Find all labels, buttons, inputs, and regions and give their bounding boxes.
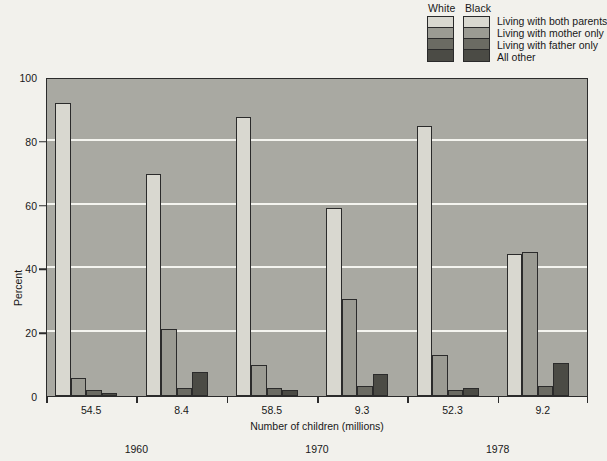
legend-swatch-column-white — [427, 16, 454, 62]
x-tick-mark-4 — [407, 397, 409, 403]
y-tick-label-0: 0 — [31, 391, 37, 403]
bar-9.2-series-3 — [538, 386, 554, 396]
bar-group-52.3 — [417, 79, 479, 396]
x-axis: Number of children (millions) 54.58.458.… — [46, 397, 588, 461]
x-tick-mark-1 — [136, 397, 138, 403]
x-tick-mark-3 — [317, 397, 319, 403]
x-tick-label-54.5: 54.5 — [81, 404, 101, 416]
legend-swatch-white-2 — [428, 28, 453, 39]
bar-58.5-series-3 — [267, 388, 283, 396]
bar-58.5-series-4 — [282, 390, 298, 396]
y-tick-label-20: 20 — [25, 327, 37, 339]
plot-area — [46, 78, 588, 397]
bar-58.5-series-2 — [251, 365, 267, 396]
legend-label-3: Living with father only — [497, 39, 607, 51]
bar-group-8.4 — [146, 79, 208, 396]
legend-swatch-black-4 — [464, 50, 489, 61]
y-tick-label-60: 60 — [25, 200, 37, 212]
bar-54.5-series-1 — [55, 103, 71, 396]
year-group-label-1970: 1970 — [305, 443, 328, 455]
y-tick-mark-40 — [39, 269, 46, 271]
bar-54.5-series-2 — [71, 378, 87, 397]
y-tick-mark-60 — [39, 205, 46, 207]
y-tick-label-40: 40 — [25, 263, 37, 275]
bar-8.4-series-2 — [161, 329, 177, 396]
bar-8.4-series-1 — [146, 174, 162, 396]
bar-group-58.5 — [236, 79, 298, 396]
x-tick-label-9.3: 9.3 — [355, 404, 370, 416]
x-axis-title: Number of children (millions) — [46, 420, 588, 432]
legend-header-black: Black — [465, 2, 491, 14]
legend-swatch-black-2 — [464, 28, 489, 39]
x-tick-mark-2 — [227, 397, 229, 403]
legend-swatch-white-1 — [428, 17, 453, 28]
y-tick-mark-80 — [39, 141, 46, 143]
legend-swatch-column-black — [463, 16, 490, 62]
bar-54.5-series-3 — [86, 390, 102, 396]
bar-52.3-series-2 — [432, 355, 448, 396]
x-tick-label-9.2: 9.2 — [536, 404, 551, 416]
bar-9.3-series-4 — [373, 374, 389, 396]
legend-label-list: Living with both parentsLiving with moth… — [497, 15, 607, 63]
bar-9.2-series-4 — [553, 363, 569, 396]
bar-9.2-series-2 — [522, 252, 538, 396]
x-tick-mark-edge-0 — [46, 397, 48, 403]
x-tick-label-8.4: 8.4 — [174, 404, 189, 416]
chart-legend: White Black Living with both parentsLivi… — [425, 2, 603, 64]
bar-8.4-series-3 — [177, 388, 193, 396]
x-tick-mark-5 — [498, 397, 500, 403]
legend-label-1: Living with both parents — [497, 15, 607, 27]
x-tick-label-58.5: 58.5 — [262, 404, 282, 416]
bar-52.3-series-1 — [417, 126, 433, 396]
bar-9.3-series-2 — [342, 299, 358, 396]
year-group-label-1960: 1960 — [125, 443, 148, 455]
bar-9.3-series-3 — [357, 386, 373, 396]
y-tick-label-100: 100 — [19, 72, 37, 84]
legend-swatch-black-3 — [464, 39, 489, 50]
bar-group-9.3 — [326, 79, 388, 396]
legend-label-4: All other — [497, 51, 607, 63]
legend-header-white: White — [428, 2, 455, 14]
y-tick-label-80: 80 — [25, 136, 37, 148]
legend-swatch-white-3 — [428, 39, 453, 50]
bar-54.5-series-4 — [102, 393, 118, 396]
bar-group-54.5 — [55, 79, 117, 396]
bar-9.3-series-1 — [326, 208, 342, 396]
legend-swatch-white-4 — [428, 50, 453, 61]
x-tick-label-52.3: 52.3 — [442, 404, 462, 416]
bar-58.5-series-1 — [236, 117, 252, 396]
legend-label-2: Living with mother only — [497, 27, 607, 39]
bar-52.3-series-3 — [448, 390, 464, 396]
bar-group-9.2 — [507, 79, 569, 396]
y-tick-mark-20 — [39, 332, 46, 334]
y-axis: Percent 020406080100 — [0, 70, 46, 402]
bar-9.2-series-1 — [507, 254, 523, 396]
x-tick-mark-edge-6 — [587, 397, 589, 403]
y-axis-title: Percent — [12, 248, 24, 328]
legend-swatch-black-1 — [464, 17, 489, 28]
year-group-label-1978: 1978 — [486, 443, 509, 455]
bar-52.3-series-4 — [463, 388, 479, 396]
bar-8.4-series-4 — [192, 372, 208, 396]
